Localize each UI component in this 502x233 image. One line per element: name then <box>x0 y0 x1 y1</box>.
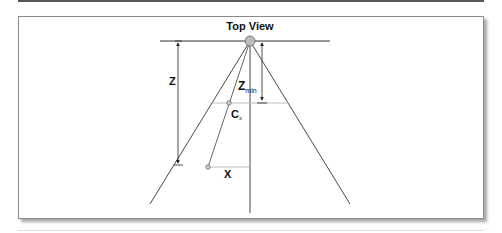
cx-point <box>227 101 231 105</box>
fov-right-ray <box>250 41 350 204</box>
z-label: Z <box>169 75 176 87</box>
top-view-diagram: Top View Z Zmin Cx X <box>0 0 502 233</box>
diagram-title: Top View <box>226 20 274 32</box>
x-point <box>206 165 210 169</box>
fov-left-ray <box>150 41 250 204</box>
camera-icon <box>245 36 255 46</box>
x-label: X <box>224 168 232 180</box>
cx-label: Cx <box>231 108 242 121</box>
zmin-label: Zmin <box>238 79 257 94</box>
